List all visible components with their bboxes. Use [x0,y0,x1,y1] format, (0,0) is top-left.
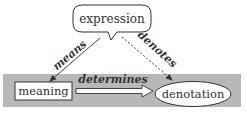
denotes-label: denotes [135,28,180,70]
meaning-node: meaning [15,82,72,100]
denotation-node: denotation [155,82,231,107]
diagram-canvas: expression means denotes meaning determi… [0,0,247,121]
determines-label: determines [78,73,148,86]
expression-label: expression [79,12,145,26]
means-label: means [50,37,89,73]
denotation-label: denotation [162,87,225,101]
meaning-label: meaning [18,84,69,98]
